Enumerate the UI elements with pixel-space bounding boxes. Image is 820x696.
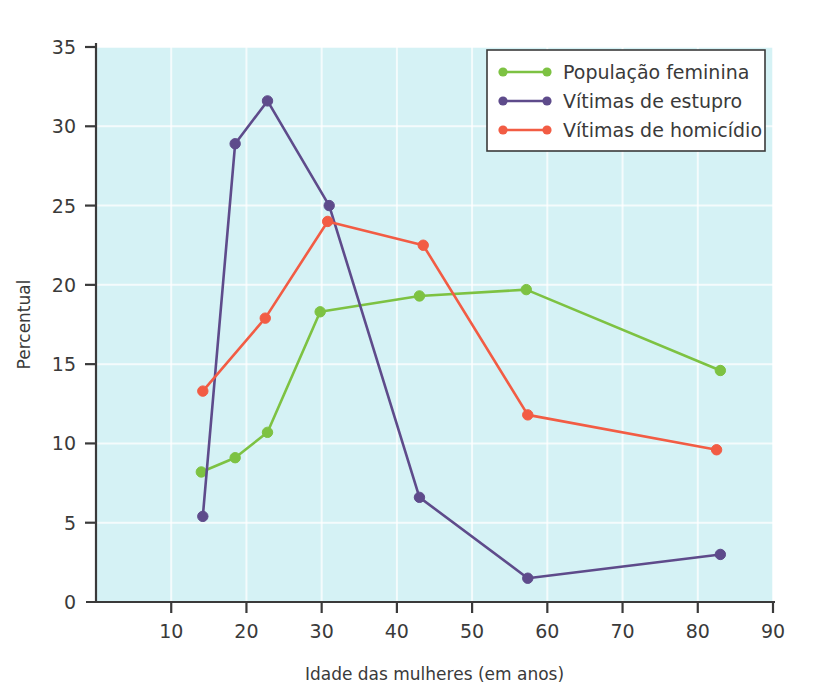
x-axis-tick-label: 70 (610, 620, 634, 642)
data-point-marker (414, 291, 424, 301)
data-point-marker (230, 139, 240, 149)
x-axis-tick-label: 30 (310, 620, 334, 642)
data-point-marker (198, 386, 208, 396)
x-axis-title: Idade das mulheres (em anos) (305, 664, 564, 684)
data-point-marker (262, 427, 272, 437)
chart-container: 05101520253035102030405060708090 Populaç… (0, 0, 820, 696)
y-axis-tick-label: 20 (52, 274, 76, 296)
data-point-marker (196, 467, 206, 477)
data-point-marker (711, 445, 721, 455)
y-axis-title: Percentual (14, 280, 34, 370)
chart-legend: População femininaVítimas de estuproVíti… (487, 50, 765, 151)
data-point-marker (324, 200, 334, 210)
y-axis-tick-label: 5 (64, 512, 76, 534)
y-axis-tick-label: 15 (52, 353, 76, 375)
legend-swatch-marker-start (498, 125, 507, 134)
x-axis-tick-label: 90 (761, 620, 785, 642)
data-point-marker (523, 573, 533, 583)
line-chart: 05101520253035102030405060708090 Populaç… (0, 0, 820, 696)
legend-swatch-marker-end (542, 67, 551, 76)
data-point-marker (260, 313, 270, 323)
legend-swatch-marker-end (542, 125, 551, 134)
legend-item-label: Vítimas de estupro (563, 90, 742, 112)
legend-item-label: Vítimas de homicídio (563, 119, 762, 141)
data-point-marker (315, 307, 325, 317)
y-axis-tick-label: 10 (52, 432, 76, 454)
data-point-marker (418, 240, 428, 250)
data-point-marker (715, 549, 725, 559)
x-axis-tick-label: 40 (385, 620, 409, 642)
data-point-marker (414, 492, 424, 502)
y-axis-tick-label: 0 (64, 591, 76, 613)
data-point-marker (262, 96, 272, 106)
legend-swatch-marker-start (498, 67, 507, 76)
x-axis-tick-label: 80 (686, 620, 710, 642)
legend-swatch-marker-end (542, 96, 551, 105)
x-axis-tick-label: 60 (535, 620, 559, 642)
x-axis-tick-label: 10 (159, 620, 183, 642)
data-point-marker (198, 511, 208, 521)
x-axis-tick-label: 20 (234, 620, 258, 642)
data-point-marker (230, 453, 240, 463)
data-point-marker (523, 410, 533, 420)
y-axis-tick-label: 30 (52, 115, 76, 137)
data-point-marker (322, 216, 332, 226)
data-point-marker (521, 284, 531, 294)
y-axis-tick-label: 35 (52, 36, 76, 58)
data-point-marker (715, 365, 725, 375)
y-axis-tick-label: 25 (52, 195, 76, 217)
x-axis-tick-label: 50 (460, 620, 484, 642)
legend-item-label: População feminina (563, 61, 749, 83)
legend-swatch-marker-start (498, 96, 507, 105)
